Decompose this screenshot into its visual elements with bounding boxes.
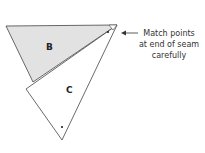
piece-c-label: C: [66, 85, 73, 95]
arrow-head-icon: [121, 31, 126, 36]
match-point-dot: [61, 126, 63, 128]
annotation-line-2: at end of seam: [139, 40, 199, 49]
piece-b-label: B: [46, 42, 53, 52]
match-point-dot: [107, 31, 109, 33]
annotation-line-3: carefully: [152, 51, 187, 60]
annotation-line-1: Match points: [143, 29, 195, 38]
seam-diagram: B C Match points at end of seam carefull…: [0, 0, 205, 153]
